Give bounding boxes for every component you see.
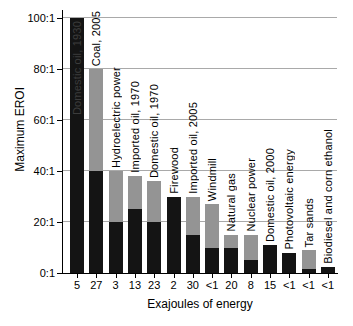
x-tick-mark [193, 274, 194, 278]
bar-label: Domestic oil, 2000 [263, 148, 277, 242]
bar-windmill [205, 204, 219, 273]
bar-label: Natural gas [224, 173, 238, 231]
x-tick-mark [251, 274, 252, 278]
y-tick-label: 0:1 [18, 267, 55, 279]
bar-hydroelectric-power [109, 171, 123, 273]
bar-label: Photovoltaic energy [282, 149, 296, 249]
bar-label: Domestic oil, 1970 [147, 84, 161, 178]
x-tick-mark [135, 274, 136, 278]
y-axis-title: Maximum EROI [13, 87, 28, 172]
y-tick-mark [57, 222, 62, 223]
bar-coal-2005 [89, 69, 103, 273]
x-tick-mark [328, 274, 329, 278]
x-tick-mark [231, 274, 232, 278]
bar-label: Nuclear power [244, 158, 258, 232]
bar-min-segment [186, 235, 200, 273]
y-tick-mark [57, 273, 62, 274]
gridline [63, 68, 337, 69]
bar-min-segment [167, 197, 181, 274]
bar-imported-oil-2005 [186, 197, 200, 274]
x-axis-line [62, 273, 338, 274]
bar-biodiesel-and-corn-ethanol [321, 267, 335, 273]
bar-min-segment [89, 171, 103, 273]
gridline [63, 119, 337, 120]
bar-nuclear-power [244, 235, 258, 273]
y-tick-mark [57, 69, 62, 70]
y-tick-label: 80:1 [18, 63, 55, 75]
bar-min-segment [205, 248, 219, 274]
x-tick-mark [96, 274, 97, 278]
plot-area: Domestic oil, 1930Coal, 2005Hydroelectri… [63, 18, 337, 273]
y-tick-label: 20:1 [18, 216, 55, 228]
bar-label: Tar sands [302, 198, 316, 248]
bar-min-segment [109, 222, 123, 273]
bar-photovoltaic-energy [282, 253, 296, 273]
bar-natural-gas [224, 235, 238, 273]
bar-min-segment [224, 248, 238, 274]
bar-label: Hydroelectric power [109, 67, 123, 168]
x-tick-mark [309, 274, 310, 278]
y-tick-label: 40:1 [18, 165, 55, 177]
bar-imported-oil-1970 [128, 176, 142, 273]
eroi-bar-chart: Maximum EROI Domestic oil, 1930Coal, 200… [0, 0, 353, 326]
y-tick-mark [57, 18, 62, 19]
x-axis-title: Exajoules of energy [63, 297, 337, 311]
bar-domestic-oil-2000 [263, 245, 277, 273]
bar-domestic-oil-1970 [147, 181, 161, 273]
x-tick-mark [212, 274, 213, 278]
x-tick-mark [270, 274, 271, 278]
bar-label: Imported oil, 2005 [186, 102, 200, 194]
y-tick-label: 60:1 [18, 114, 55, 126]
bar-label: Coal, 2005 [89, 11, 103, 66]
bar-label: Imported oil, 1970 [128, 81, 142, 173]
x-tick-mark [174, 274, 175, 278]
x-tick-mark [289, 274, 290, 278]
bar-min-segment [128, 209, 142, 273]
bar-min-segment [321, 267, 335, 273]
bar-label: Domestic oil, 1930 [70, 21, 84, 115]
bar-min-segment [302, 269, 316, 273]
x-tick-mark [116, 274, 117, 278]
y-tick-label: 100:1 [18, 12, 55, 24]
x-tick-mark [77, 274, 78, 278]
bar-tar-sands [302, 250, 316, 273]
gridline [63, 17, 337, 18]
bar-label: Firewood [167, 147, 181, 194]
x-tick-mark [154, 274, 155, 278]
bar-min-segment [147, 222, 161, 273]
bar-firewood [167, 197, 181, 274]
bar-label: Windmill [205, 158, 219, 201]
bar-label: Biodiesel and corn ethanol [321, 129, 335, 264]
y-tick-mark [57, 120, 62, 121]
x-tick-label: <1 [315, 279, 341, 291]
bar-min-segment [244, 260, 258, 273]
y-tick-mark [57, 171, 62, 172]
bar-min-segment [263, 245, 277, 273]
bar-min-segment [282, 253, 296, 273]
